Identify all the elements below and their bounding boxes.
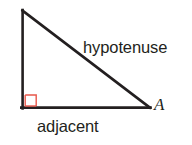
right-triangle-figure: hypotenuse adjacent A <box>0 0 192 145</box>
label-hypotenuse: hypotenuse <box>83 39 167 56</box>
label-vertex-a: A <box>154 96 164 113</box>
label-adjacent: adjacent <box>37 118 99 135</box>
triangle-side-hypotenuse <box>22 10 150 108</box>
right-angle-marker-icon <box>25 95 36 106</box>
